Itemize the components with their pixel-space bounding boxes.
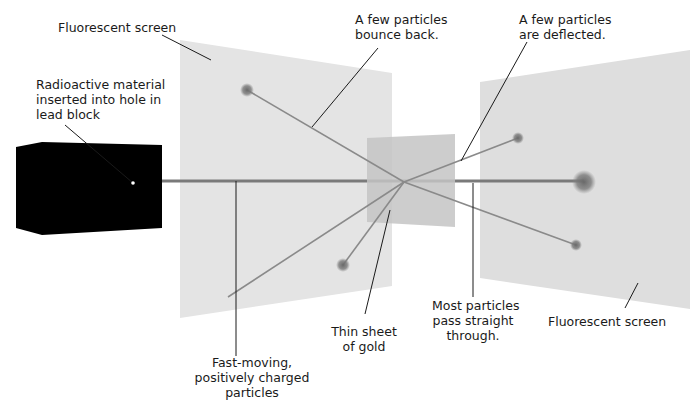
label-radioactive-material: Radioactive material inserted into hole … (36, 77, 165, 122)
label-fluorescent-screen-right: Fluorescent screen (548, 314, 666, 329)
spot-deflect-bottom (570, 239, 582, 251)
spot-deflect-top (512, 132, 524, 144)
label-fluorescent-screen-left: Fluorescent screen (58, 20, 176, 35)
label-pass-through: Most particles pass straight through. (432, 298, 514, 343)
radioactive-source-dot (131, 181, 135, 185)
label-bounce-back: A few particles bounce back. (355, 12, 447, 42)
label-deflected: A few particles are deflected. (519, 12, 611, 42)
label-particles: Fast-moving, positively charged particle… (182, 355, 322, 400)
spot-bounce-top (240, 83, 254, 97)
spot-bounce-bottom (336, 258, 350, 272)
label-gold-sheet: Thin sheet of gold (324, 324, 404, 354)
spot-main (572, 170, 596, 194)
fluorescent-screen-left (180, 40, 392, 318)
lead-block (16, 142, 162, 235)
